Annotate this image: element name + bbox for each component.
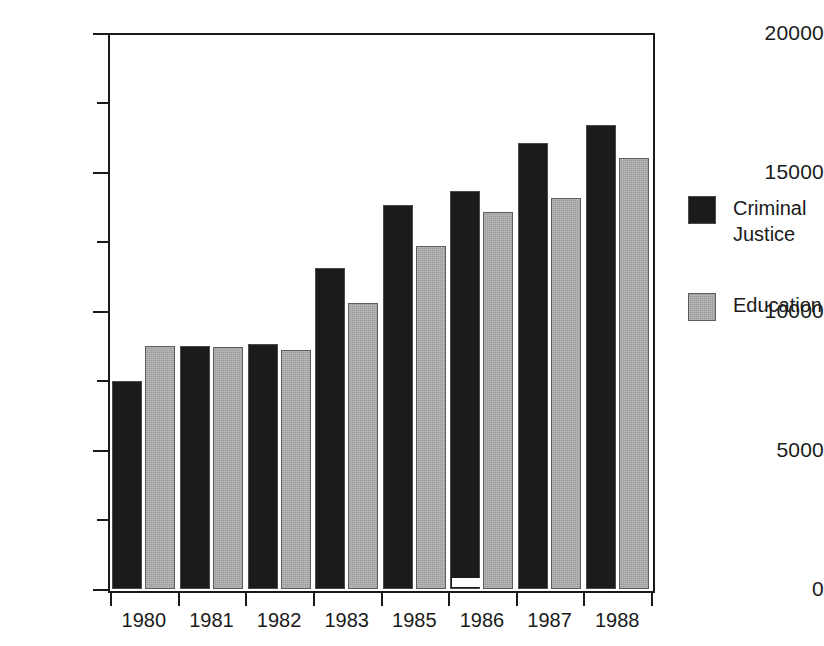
bar-education-1988 (619, 158, 649, 589)
bar-education-1985 (416, 246, 446, 589)
x-tick-1980 (110, 591, 112, 606)
dark-swatch-icon (688, 196, 716, 224)
bar-criminal-justice-1986 (450, 191, 480, 589)
y-tick-5000 (93, 450, 108, 452)
bar-criminal-justice-1985 (383, 205, 413, 589)
bar-criminal-justice-1987 (518, 143, 548, 589)
x-tick-1987 (516, 591, 518, 606)
bar-criminal-justice-1981 (180, 346, 210, 589)
x-tick-1982 (245, 591, 247, 606)
bar-education-1982 (281, 350, 311, 589)
x-tick-1986 (448, 591, 450, 606)
y-axis-label-15000: 15000 (738, 161, 824, 182)
bar-notch-artifact (452, 578, 480, 587)
bar-education-1980 (145, 346, 175, 589)
y-tick-15000 (93, 172, 108, 174)
bar-chart: 20000 15000 10000 5000 0 198019811982198… (0, 0, 824, 646)
y-axis-label-20000: 20000 (738, 22, 824, 43)
bar-criminal-justice-1988 (586, 125, 616, 589)
legend-label-criminal-justice: Criminal Justice (733, 195, 806, 247)
y-tick-20000 (93, 33, 108, 35)
y-tick-7500 (97, 380, 108, 382)
x-tick-1981 (178, 591, 180, 606)
y-tick-17500 (97, 102, 108, 104)
gray-swatch-icon (688, 293, 716, 321)
y-tick-2500 (97, 519, 108, 521)
bar-criminal-justice-1983 (315, 268, 345, 589)
bar-education-1986 (483, 212, 513, 589)
y-axis-label-5000: 5000 (738, 439, 824, 460)
x-tick-end (651, 591, 653, 606)
x-tick-1985 (381, 591, 383, 606)
bar-education-1987 (551, 198, 581, 589)
legend-label-education: Education (733, 292, 822, 318)
y-tick-0 (93, 589, 108, 591)
y-tick-12500 (97, 241, 108, 243)
y-axis-label-0: 0 (738, 578, 824, 599)
x-tick-1988 (583, 591, 585, 606)
bar-criminal-justice-1980 (112, 381, 142, 590)
bar-criminal-justice-1982 (248, 344, 278, 589)
y-tick-10000 (93, 311, 108, 313)
bar-education-1981 (213, 347, 243, 589)
x-tick-1983 (313, 591, 315, 606)
x-axis-label-1988: 1988 (572, 608, 662, 632)
bar-education-1983 (348, 303, 378, 589)
